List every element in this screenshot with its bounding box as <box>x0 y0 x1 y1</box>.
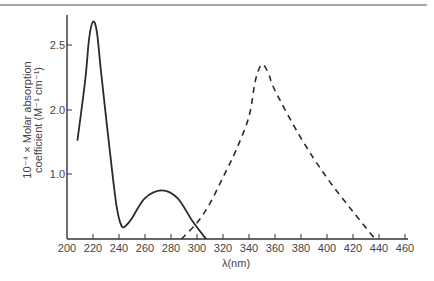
x-tick-label: 300 <box>188 242 206 254</box>
x-tick-label: 460 <box>396 242 414 254</box>
x-tick-label: 340 <box>240 242 258 254</box>
x-tick-label: 360 <box>266 242 284 254</box>
x-tick-label: 260 <box>136 242 154 254</box>
dashed-curve <box>181 64 375 239</box>
absorption-spectrum-chart: 1.02.02.5 200220240260280300320340360380… <box>0 0 434 281</box>
y-axis-title: 10⁻⁴ × Molar absorption coefficient (M⁻¹… <box>21 61 44 178</box>
x-tick-label: 320 <box>214 242 232 254</box>
x-tick-label: 440 <box>370 242 388 254</box>
x-tick-label: 220 <box>84 242 102 254</box>
x-tick-label: 420 <box>344 242 362 254</box>
plot-series <box>77 21 375 239</box>
x-axis: 2002202402602803003203403603804004204404… <box>58 234 414 254</box>
x-tick-label: 240 <box>110 242 128 254</box>
y-axis: 1.02.02.5 <box>50 15 72 239</box>
y-tick-label: 1.0 <box>50 168 65 180</box>
y-axis-title-line2: coefficient (M⁻¹ cm⁻¹) <box>32 67 44 173</box>
y-tick-label: 2.0 <box>50 104 65 116</box>
y-tick-label: 2.5 <box>50 39 65 51</box>
x-tick-label: 380 <box>292 242 310 254</box>
x-tick-label: 400 <box>318 242 336 254</box>
solid-curve <box>77 21 206 239</box>
x-tick-label: 280 <box>162 242 180 254</box>
x-axis-title: λ(nm) <box>222 257 250 269</box>
x-tick-label: 200 <box>58 242 76 254</box>
